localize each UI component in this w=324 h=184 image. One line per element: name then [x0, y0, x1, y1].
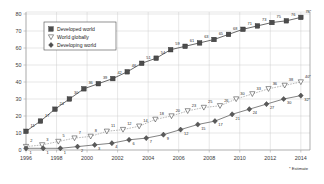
data-point-label: 3 — [46, 137, 48, 142]
data-point-label: 18 — [160, 111, 164, 116]
data-point-label: 17 — [218, 122, 222, 127]
data-point-label: 2 — [30, 138, 32, 143]
data-point-marker — [183, 44, 188, 49]
x-tick-label: 2012 — [264, 155, 276, 161]
data-point-marker — [226, 32, 231, 37]
data-point-label: 6 — [132, 141, 134, 146]
y-tick-label: 40 — [16, 79, 22, 85]
data-point-marker — [92, 142, 97, 147]
data-point-label: 11 — [31, 123, 35, 128]
data-point-marker — [281, 96, 286, 101]
data-point-marker — [212, 37, 217, 42]
data-point-label: 15 — [201, 126, 205, 131]
data-point-label: 17 — [45, 113, 49, 118]
data-point-label: 75 — [277, 14, 281, 19]
x-tick-label: 2002 — [112, 155, 124, 161]
data-point-marker — [255, 24, 260, 29]
estimate-note: * Estimate — [289, 166, 309, 171]
data-point-label: 46 — [132, 63, 136, 68]
y-tick-label: 50 — [16, 62, 22, 68]
data-point-label: 1 — [64, 150, 66, 155]
x-tick-label: 2008 — [203, 155, 215, 161]
data-point-marker — [197, 41, 202, 46]
legend-label: World globally — [57, 34, 89, 40]
data-point-marker — [153, 117, 158, 122]
x-tick-label: 2004 — [142, 155, 154, 161]
data-point-label: 4 — [115, 144, 118, 149]
data-point-marker — [82, 87, 87, 92]
data-point-marker — [120, 127, 125, 132]
x-tick-label: 1998 — [51, 155, 63, 161]
data-point-label: 36 — [88, 80, 92, 85]
data-point-label: 21 — [236, 116, 240, 121]
data-point-marker — [185, 109, 190, 114]
data-point-marker — [110, 76, 115, 81]
data-point-label: 1 — [47, 150, 49, 155]
data-point-marker — [195, 122, 200, 127]
data-point-label: 1 — [29, 150, 31, 155]
data-point-label: 27 — [270, 105, 274, 110]
y-tick-label: 60 — [16, 45, 22, 51]
y-tick-label: 0 — [19, 147, 22, 153]
data-point-label: 38 — [289, 77, 293, 82]
y-tick-label: 80 — [16, 11, 22, 17]
data-point-marker — [125, 70, 130, 75]
data-point-label: 8 — [95, 128, 97, 133]
chart-canvas: 0102030405060708019961998200020022004200… — [0, 0, 324, 184]
data-point-label: 40* — [305, 74, 311, 79]
data-point-label: 12 — [184, 131, 188, 136]
data-point-label: 65 — [219, 31, 223, 36]
data-point-label: 68 — [233, 26, 237, 31]
legend-marker-square — [49, 27, 54, 32]
series-line-developing-world — [26, 96, 301, 149]
data-point-label: 30 — [240, 91, 245, 96]
data-point-label: 7 — [150, 139, 152, 144]
data-point-label: 24 — [253, 110, 258, 115]
data-point-marker — [38, 119, 43, 124]
data-point-label: 63 — [204, 34, 208, 39]
data-point-marker — [264, 102, 269, 107]
y-tick-label: 10 — [16, 130, 22, 136]
data-point-label: 76 — [291, 12, 295, 17]
data-point-marker — [109, 141, 114, 146]
data-point-label: 78* — [305, 9, 311, 14]
y-tick-label: 20 — [16, 113, 22, 119]
data-point-label: 2 — [81, 148, 83, 153]
data-point-label: 51 — [146, 55, 150, 60]
data-point-label: 71 — [248, 21, 252, 26]
data-point-label: 59 — [175, 41, 179, 46]
legend-label: Developing world — [57, 42, 96, 48]
x-tick-label: 2014 — [295, 155, 307, 161]
data-point-marker — [154, 56, 159, 61]
data-point-label: 5 — [63, 133, 65, 138]
x-tick-label: 1996 — [20, 155, 32, 161]
data-point-label: 33 — [257, 86, 261, 91]
data-point-marker — [75, 144, 80, 149]
data-point-label: 23 — [192, 103, 196, 108]
data-point-label: 42 — [117, 70, 121, 75]
data-point-marker — [144, 136, 149, 141]
legend-label: Developed world — [57, 26, 95, 32]
data-point-marker — [298, 93, 303, 98]
data-point-label: 3 — [98, 146, 100, 151]
data-point-marker — [53, 107, 58, 112]
data-point-label: 30 — [287, 100, 292, 105]
y-tick-label: 70 — [16, 28, 22, 34]
data-point-marker — [213, 119, 218, 124]
data-point-label: 36 — [273, 81, 277, 86]
data-point-marker — [299, 15, 304, 20]
data-point-marker — [88, 134, 93, 139]
y-tick-label: 30 — [16, 96, 22, 102]
data-point-marker — [139, 61, 144, 66]
data-point-marker — [24, 129, 29, 134]
data-point-label: 20 — [176, 108, 181, 113]
data-point-label: 26 — [224, 98, 228, 103]
data-point-marker — [284, 19, 289, 24]
data-point-label: 61 — [190, 38, 194, 43]
data-point-label: 39 — [103, 75, 107, 80]
x-tick-label: 2006 — [173, 155, 185, 161]
data-point-label: 25 — [208, 99, 212, 104]
data-point-marker — [250, 92, 255, 97]
data-point-label: 11 — [111, 123, 115, 128]
data-point-label: 9 — [167, 136, 169, 141]
